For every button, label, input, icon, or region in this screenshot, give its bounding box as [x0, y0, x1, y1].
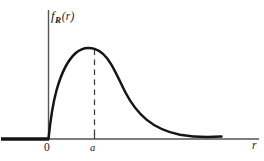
plot-area — [0, 0, 264, 161]
x-axis-label: r — [252, 140, 256, 152]
x-tick-label-mode: a — [90, 143, 95, 154]
y-axis-label-argument: (r) — [62, 10, 75, 22]
y-axis-label: fR(r) — [51, 9, 75, 25]
rayleigh-pdf-curve — [49, 48, 222, 139]
x-tick-label-origin: 0 — [44, 142, 50, 154]
y-axis-label-subscript: R — [55, 15, 61, 25]
rayleigh-pdf-figure: fR(r) r 0 a — [0, 0, 264, 161]
